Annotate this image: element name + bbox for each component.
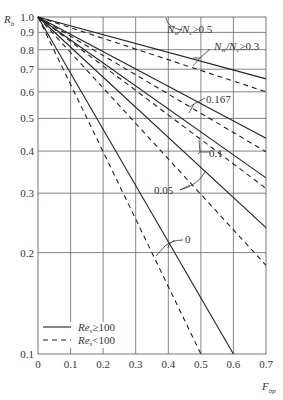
annotation-0.1: 0.1: [209, 147, 223, 159]
annotations: [156, 18, 210, 256]
y-tick: 0.6: [20, 86, 34, 98]
y-tick-labels: 1.0 0.9 0.8 0.7 0.6 0.5 0.4 0.3 0.2 0.1: [20, 11, 34, 360]
line-0.167-dashed: [38, 17, 266, 152]
line-0.3-dashed: [38, 17, 266, 92]
annotation-0.3: Nw/Nc≥0.3: [213, 40, 260, 54]
y-tick: 0.2: [20, 247, 34, 259]
annotation-0: 0: [185, 233, 191, 245]
x-tick: 0.4: [161, 358, 175, 370]
annotation-0.5: Nw/Nc≥0.5: [166, 23, 213, 37]
y-tick: 0.9: [20, 26, 34, 38]
x-axis-label: Fbp: [261, 380, 276, 395]
y-tick: 0.5: [20, 112, 34, 124]
annotation-0.05: 0.05: [154, 184, 174, 196]
y-axis-label: Rb: [3, 13, 15, 28]
y-tick: 0.1: [20, 348, 34, 360]
x-tick: 0: [35, 358, 41, 370]
annotation-0.167: 0.167: [206, 93, 231, 105]
grid: [38, 17, 266, 354]
y-tick: 0.8: [20, 44, 34, 56]
y-tick: 1.0: [20, 11, 34, 23]
y-tick: 0.7: [20, 63, 34, 75]
x-tick: 0.2: [96, 358, 110, 370]
y-tick: 0.4: [20, 145, 34, 157]
legend-dashed-label: Res<100: [77, 334, 116, 348]
legend-solid-label: Res≥100: [77, 321, 115, 335]
chart: 1.0 0.9 0.8 0.7 0.6 0.5 0.4 0.3 0.2 0.1 …: [0, 0, 283, 400]
x-tick: 0.3: [129, 358, 143, 370]
series-lines: [38, 17, 266, 354]
legend: Res≥100 Res<100: [40, 321, 120, 348]
y-tick: 0.3: [20, 187, 34, 199]
x-tick-labels: 0 0.1 0.2 0.3 0.4 0.5 0.6 0.7: [35, 358, 273, 370]
line-0.167-solid: [38, 17, 266, 138]
x-tick: 0.6: [227, 358, 241, 370]
x-tick: 0.7: [259, 358, 273, 370]
x-tick: 0.1: [64, 358, 78, 370]
x-tick: 0.5: [194, 358, 208, 370]
line-0-dashed: [38, 17, 201, 354]
